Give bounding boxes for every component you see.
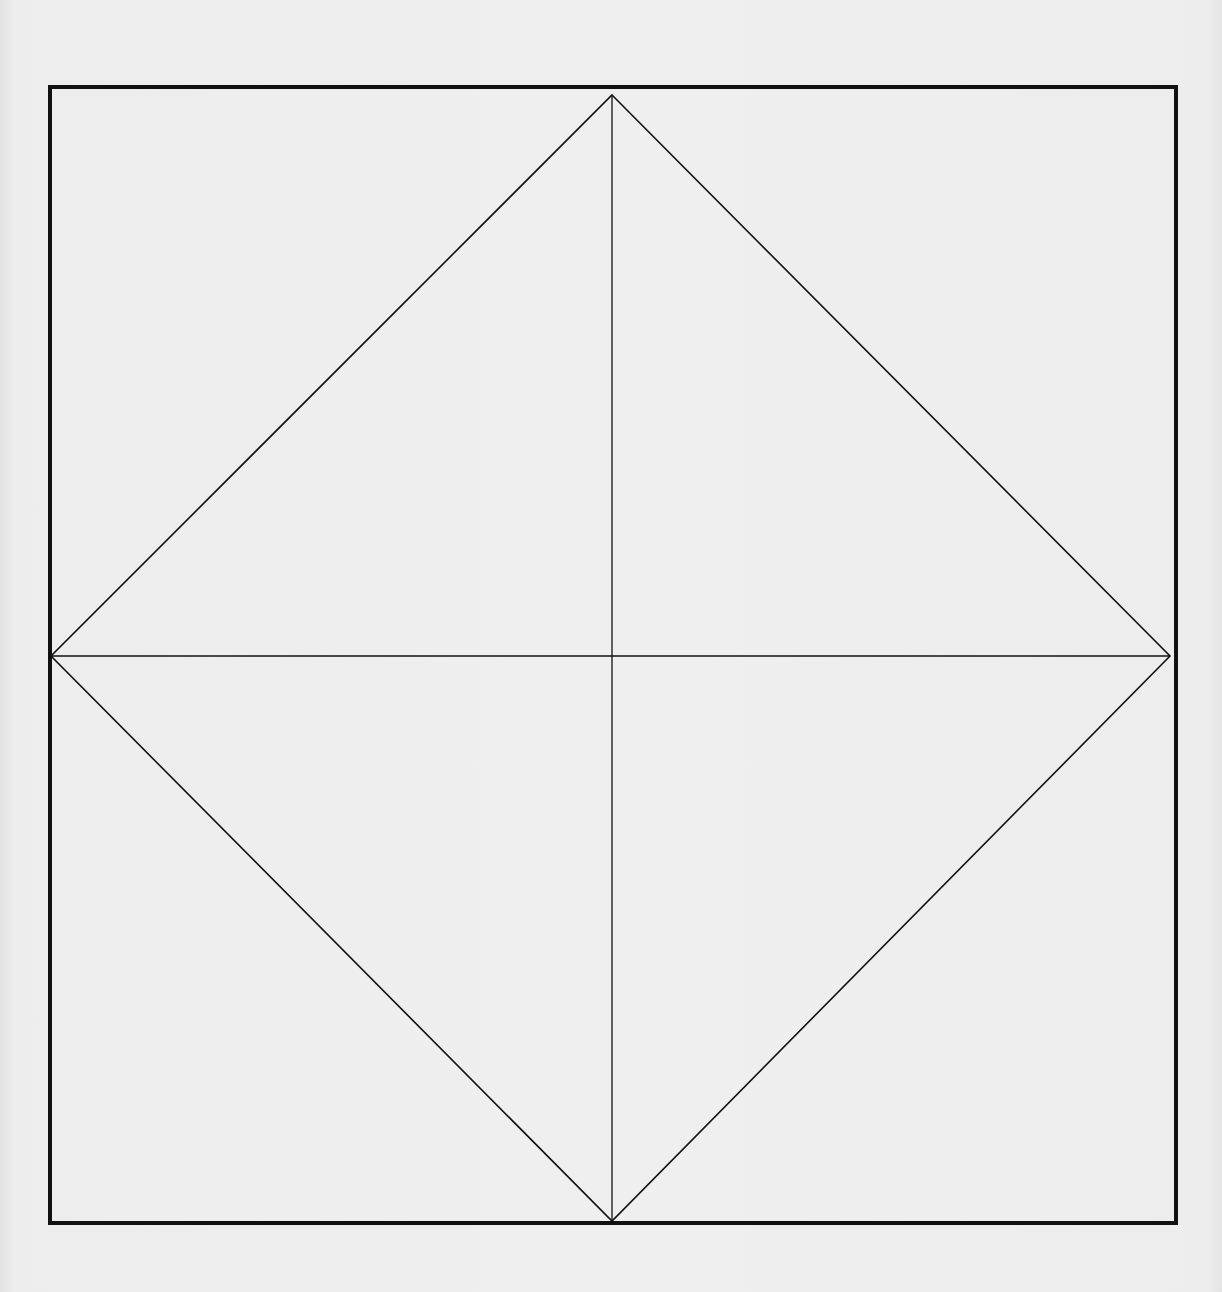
inscribed-diamond: [51, 95, 1170, 1221]
geometric-diagram: [0, 0, 1222, 1292]
outer-square: [50, 87, 1176, 1223]
